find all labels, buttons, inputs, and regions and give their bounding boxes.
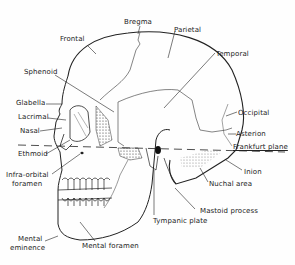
label-nuchal-area: Nuchal area — [209, 180, 252, 188]
label-mental-eminence-1: Mental — [18, 235, 42, 243]
label-nasal: Nasal — [20, 127, 40, 135]
label-sphenoid: Sphenoid — [24, 68, 58, 76]
teeth — [58, 178, 112, 206]
label-mastoid-process: Mastoid process — [200, 207, 258, 215]
skull-diagram: Bregma Frontal Parietal Temporal Sphenoi… — [0, 0, 295, 265]
label-frankfurt-plane: Frankfurt plane — [233, 143, 288, 151]
label-occipital: Occipital — [238, 109, 269, 117]
label-tympanic-plate: Tympanic plate — [153, 217, 207, 225]
label-infra-orbital-foramen-2: foramen — [12, 180, 42, 188]
label-bregma: Bregma — [124, 18, 152, 26]
label-lacrimal: Lacrimal — [18, 113, 49, 121]
label-inion: Inion — [244, 168, 262, 176]
label-ethmoid: Ethmoid — [18, 150, 48, 158]
label-infra-orbital-foramen-1: Infra-orbital — [6, 171, 49, 179]
label-mental-foramen: Mental foramen — [82, 242, 139, 250]
label-frontal: Frontal — [60, 35, 85, 43]
label-glabella: Glabella — [16, 99, 45, 107]
label-asterion: Asterion — [236, 130, 266, 138]
label-temporal: Temporal — [216, 50, 249, 58]
label-parietal: Parietal — [174, 26, 201, 34]
label-mental-eminence-2: eminence — [10, 244, 45, 252]
